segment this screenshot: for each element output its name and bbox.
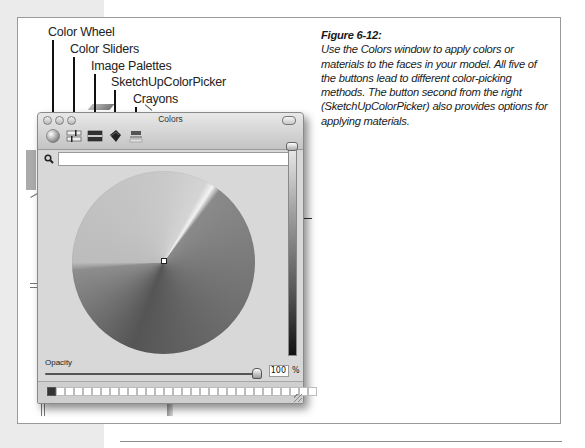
opacity-label: Opacity — [45, 358, 72, 367]
color-swatch[interactable] — [173, 387, 182, 396]
figure-caption: Figure 6-12: Use the Colors window to ap… — [321, 28, 553, 128]
opacity-slider-knob[interactable] — [252, 368, 262, 379]
background-sketch-line — [167, 402, 173, 416]
brightness-slider[interactable] — [288, 144, 297, 356]
color-swatch[interactable] — [47, 387, 56, 396]
image-palettes-tab[interactable] — [87, 128, 103, 144]
color-swatch[interactable] — [119, 387, 128, 396]
search-input[interactable] — [58, 152, 296, 166]
color-swatch[interactable] — [263, 387, 272, 396]
color-wheel-tab[interactable] — [45, 128, 61, 144]
image-palettes-icon — [87, 128, 103, 144]
color-swatch[interactable] — [92, 387, 101, 396]
callout-line-color-wheel — [52, 40, 54, 118]
color-swatch[interactable] — [245, 387, 254, 396]
color-swatch[interactable] — [227, 387, 236, 396]
color-swatch[interactable] — [272, 387, 281, 396]
crayons-tab[interactable] — [128, 128, 144, 144]
color-swatch[interactable] — [74, 387, 83, 396]
color-swatch[interactable] — [281, 387, 290, 396]
background-sketch-line — [26, 150, 36, 190]
color-swatch[interactable] — [209, 387, 218, 396]
swatch-row — [47, 387, 317, 396]
callout-color-wheel: Color Wheel — [48, 25, 115, 39]
search-icon — [44, 154, 54, 164]
crayons-icon — [128, 128, 144, 144]
color-swatch[interactable] — [65, 387, 74, 396]
color-swatch[interactable] — [110, 387, 119, 396]
color-wheel-icon — [45, 128, 61, 144]
colors-window: Colors Opacity 100 % — [37, 112, 304, 404]
figure-caption-title: Figure 6-12: — [321, 28, 553, 42]
color-swatch[interactable] — [83, 387, 92, 396]
callout-crayons: Crayons — [133, 92, 178, 106]
color-sliders-icon — [66, 128, 82, 144]
color-swatch[interactable] — [200, 387, 209, 396]
color-swatch[interactable] — [191, 387, 200, 396]
window-titlebar[interactable]: Colors — [38, 113, 303, 150]
search-row — [38, 150, 303, 170]
callout-image-palettes: Image Palettes — [91, 59, 172, 73]
color-swatch[interactable] — [182, 387, 191, 396]
resize-handle[interactable] — [294, 394, 302, 402]
color-swatch[interactable] — [146, 387, 155, 396]
color-wheel-cursor[interactable] — [161, 258, 167, 264]
color-swatch[interactable] — [155, 387, 164, 396]
window-title: Colors — [38, 114, 303, 124]
color-swatch[interactable] — [254, 387, 263, 396]
color-swatch[interactable] — [56, 387, 65, 396]
swatch-well — [38, 381, 303, 403]
toolbar-toggle-button[interactable] — [282, 116, 296, 125]
opacity-slider[interactable] — [45, 373, 255, 375]
brightness-slider-knob[interactable] — [286, 142, 298, 151]
color-swatch[interactable] — [308, 387, 317, 396]
color-sliders-tab[interactable] — [66, 128, 82, 144]
paint-bucket-icon — [107, 128, 123, 144]
background-sketch-line — [41, 402, 42, 416]
bottom-rule — [120, 441, 562, 442]
color-swatch[interactable] — [128, 387, 137, 396]
callout-color-sliders: Color Sliders — [70, 42, 139, 56]
color-swatch[interactable] — [164, 387, 173, 396]
figure-caption-body: Use the Colors window to apply colors or… — [321, 43, 547, 126]
background-sketch-line — [44, 402, 45, 416]
color-swatch[interactable] — [137, 387, 146, 396]
opacity-unit: % — [292, 366, 300, 375]
callout-sketchup-color-picker: SketchUpColorPicker — [111, 75, 226, 89]
color-swatch[interactable] — [101, 387, 110, 396]
opacity-value-field[interactable]: 100 — [269, 365, 289, 377]
color-swatch[interactable] — [236, 387, 245, 396]
sketchup-color-picker-tab[interactable] — [107, 128, 123, 144]
color-swatch[interactable] — [218, 387, 227, 396]
